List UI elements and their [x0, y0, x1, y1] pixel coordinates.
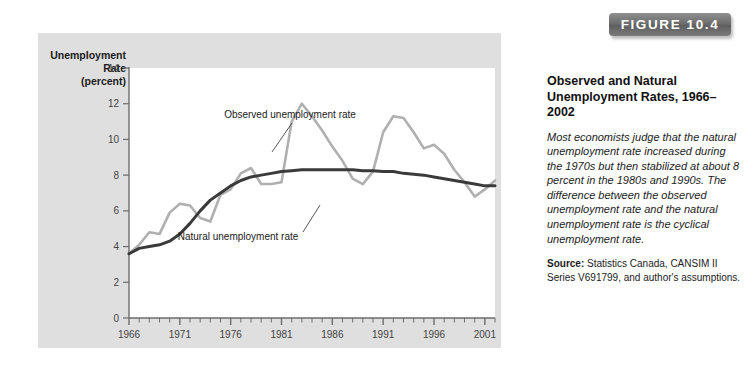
- x-axis-tick-label: 1986: [321, 329, 344, 340]
- caption-body: Most economists judge that the natural u…: [547, 130, 743, 247]
- natural-rate-annotation-label: Natural unemployment rate: [178, 231, 299, 242]
- figure-number-label: FIGURE 10.4: [621, 17, 720, 32]
- y-axis-tick-label: 0: [113, 313, 119, 324]
- x-axis-tick-label: 1996: [423, 329, 446, 340]
- figure-number-badge: FIGURE 10.4: [609, 13, 731, 36]
- y-axis-tick-label: 6: [113, 205, 119, 216]
- line-chart: 0246810121419661971197619811986199119962…: [38, 33, 501, 348]
- x-axis-tick-label: 1966: [118, 329, 141, 340]
- caption-title: Observed and Natural Unemployment Rates,…: [547, 74, 743, 121]
- y-axis-tick-label: 10: [108, 134, 120, 145]
- y-axis-tick-label: 14: [108, 63, 120, 74]
- x-axis-tick-label: 1991: [372, 329, 395, 340]
- y-axis-tick-label: 12: [108, 98, 120, 109]
- x-axis-tick-label: 1981: [270, 329, 293, 340]
- y-axis-tick-label: 8: [113, 170, 119, 181]
- chart-panel: Unemployment Rate (percent) 024681012141…: [38, 33, 501, 348]
- y-axis-tick-label: 4: [113, 241, 119, 252]
- caption-source-label: Source:: [547, 258, 584, 269]
- x-axis-tick-label: 2001: [474, 329, 497, 340]
- x-axis-tick-label: 1976: [220, 329, 243, 340]
- figure-root: FIGURE 10.4 Unemployment Rate (percent) …: [0, 0, 750, 373]
- natural-rate-annotation-leader-line: [303, 205, 320, 232]
- observed-rate-annotation-label: Observed unemployment rate: [224, 109, 356, 120]
- caption-source: Source: Statistics Canada, CANSIM II Ser…: [547, 257, 743, 284]
- caption-column: Observed and Natural Unemployment Rates,…: [547, 74, 743, 284]
- x-axis-tick-label: 1971: [169, 329, 192, 340]
- y-axis-tick-label: 2: [113, 277, 119, 288]
